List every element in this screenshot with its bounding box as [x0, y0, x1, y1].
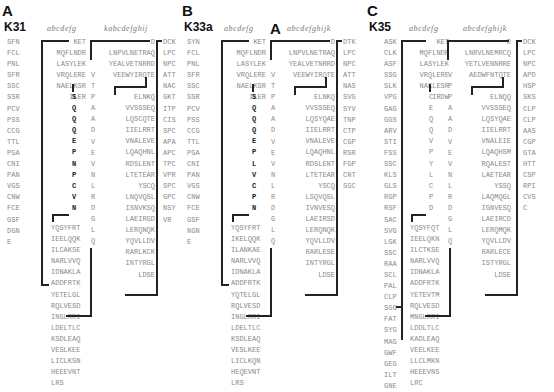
connector-line — [246, 315, 272, 317]
panel-label: A — [2, 2, 13, 19]
sequence-segment: NAELKSR — [226, 81, 266, 92]
head-column: SYNFCLPNLSFRSSCSSRPCVPSSCCGTTLPGACNIPANV… — [187, 37, 200, 248]
connector-line — [41, 40, 43, 285]
sequence-segment: ILCTKSE — [410, 245, 439, 256]
connector-line — [72, 84, 74, 92]
sequence-segment: CVS — [523, 192, 536, 203]
sequence-segment: CLK — [384, 48, 397, 59]
sequence-segment: G — [89, 214, 97, 225]
sequence-segment: CNT — [343, 170, 356, 181]
connector-line — [270, 40, 272, 60]
sequence-segment: ASK — [384, 37, 397, 48]
sequence-segment: Q — [250, 103, 258, 114]
connector-line — [401, 40, 403, 340]
sequence-segment: N — [446, 170, 454, 181]
sequence-segment: RSR — [343, 148, 356, 159]
connector-line — [447, 40, 449, 60]
sequence-segment: VRQLERE — [226, 70, 266, 81]
sequence-segment: KADLEAQ — [410, 334, 439, 345]
sequence-segment: LASYLEK — [409, 59, 449, 70]
sequence-segment: SYV — [343, 104, 356, 115]
sequence-segment: V — [269, 70, 277, 81]
sequence-segment: VVSSSEQ — [99, 103, 155, 114]
sequence-segment: LQAQHSM — [455, 147, 511, 158]
panel-c: C K35 abcdefg abcdefghijk ASKCLKASFSSGSL… — [365, 0, 554, 334]
sequence-segment: GLS — [384, 181, 397, 192]
sequence-segment: YSSQ — [455, 181, 511, 192]
sequence-segment: Q — [269, 236, 277, 247]
sequence-segment: SFR — [7, 70, 20, 81]
connector-line — [66, 315, 92, 317]
sequence-segment: NARLVVQ — [231, 256, 260, 267]
sequence-segment: RARLKCK — [99, 247, 155, 258]
sequence-segment: Q — [446, 236, 454, 247]
sequence-segment: NAELKSR — [46, 81, 86, 92]
sequence-segment: SAC — [384, 215, 397, 226]
sequence-segment: NAC — [163, 81, 176, 92]
sequence-segment: IDNAKLA — [231, 267, 260, 278]
sequence-segment: P — [70, 170, 78, 181]
sequence-segment: FGP — [343, 159, 356, 170]
sequence-segment: LAEIRGD — [99, 214, 155, 225]
sequence-segment: V — [89, 159, 97, 170]
sequence-segment: LPC — [343, 48, 356, 59]
sequence-segment: LRC — [410, 378, 439, 389]
sequence-segment: KET — [409, 37, 449, 48]
connector-line — [41, 40, 69, 42]
sequence-segment: ILT — [384, 370, 397, 381]
sequence-segment: LICLKSN — [51, 356, 80, 367]
sequence-segment: NPC — [163, 59, 176, 70]
sequence-segment: ARV — [384, 126, 397, 137]
sequence-segment: LQSYQAE — [279, 114, 335, 125]
sequence-segment: ILCAKSE — [51, 245, 80, 256]
connector-line — [90, 248, 92, 316]
sequence-segment: CTP — [343, 126, 356, 137]
sequence-segment: HEEEVNT — [51, 367, 80, 378]
connector-line — [221, 284, 229, 286]
sequence-segment: PGA — [7, 148, 20, 159]
sequence-segment: N — [70, 159, 78, 170]
sequence-segment: SFR — [187, 70, 200, 81]
sequence-segment: CLP — [523, 104, 536, 115]
sequence-segment: LPC — [523, 48, 536, 59]
sequence-segment: INGLRRI — [231, 312, 260, 323]
sequence-segment: FCE — [7, 203, 20, 214]
sequence-segment: GEG — [384, 359, 397, 370]
sequence-segment: IEELQQK — [51, 234, 80, 245]
sequence-segment: CCG — [187, 126, 200, 137]
sequence-segment: A — [269, 114, 277, 125]
sequence-segment: LASYLEK — [226, 59, 266, 70]
sequence-segment: L — [89, 225, 97, 236]
sequence-segment: LSQVQSL — [279, 192, 335, 203]
sequence-segment: IKELQQK — [231, 234, 260, 245]
sequence-segment: P — [269, 92, 277, 103]
sequence-segment: LAEIRCD — [455, 214, 511, 225]
sequence-segment: RGP — [384, 192, 397, 203]
sequence-segment: LNQVQSL — [99, 192, 155, 203]
sequence-segment: D — [89, 125, 97, 136]
connector-line — [52, 214, 69, 216]
sequence-segment: ADDFRTK — [51, 278, 80, 289]
sequence-segment: L — [446, 225, 454, 236]
sequence-segment: LNPVLNETRAQ — [99, 48, 155, 59]
sequence-segment: RARLESE — [279, 247, 335, 258]
sequence-segment: ILANKAE — [231, 245, 260, 256]
sequence-segment: PSS — [187, 115, 200, 126]
sequence-segment: S — [70, 92, 78, 103]
sequence-segment: RSF — [384, 203, 397, 214]
sequence-segment: IVNVESQ — [279, 203, 335, 214]
connector-line — [270, 248, 272, 316]
sequence-segment: KET — [226, 37, 266, 48]
connector-line — [125, 294, 158, 296]
sequence-segment: T — [89, 81, 97, 92]
sequence-segment: R — [89, 192, 97, 203]
sequence-segment: S — [250, 92, 258, 103]
sequence-segment: LERQMQK — [455, 225, 511, 236]
coil2-column: DLNPVLNETRAQYEALVETNRRDVEEWYIRQTE — [99, 37, 155, 81]
sequence-segment: GKT — [163, 92, 176, 103]
sequence-segment: PCV — [187, 104, 200, 115]
sequence-segment: R — [269, 192, 277, 203]
sequence-segment: CLP — [523, 115, 536, 126]
connector-line — [449, 248, 451, 316]
sequence-segment: PAN — [187, 170, 200, 181]
